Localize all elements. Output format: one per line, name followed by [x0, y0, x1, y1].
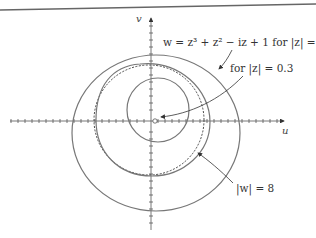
top-rule: [0, 4, 316, 10]
u-axis: [10, 119, 284, 123]
label-main-mapping: w = z³ + z² − iz + 1 for |z| = 2: [163, 37, 316, 48]
u-axis-label: u: [282, 125, 288, 136]
v-axis-label: v: [136, 13, 142, 24]
origin-marker: [153, 119, 157, 123]
v-axis: [149, 18, 153, 230]
small-image-curve: [127, 78, 189, 142]
label-w8: |w| = 8: [236, 183, 274, 194]
arrow-w8-label: [198, 153, 233, 183]
label-small-circle: for |z| = 0.3: [230, 63, 293, 74]
